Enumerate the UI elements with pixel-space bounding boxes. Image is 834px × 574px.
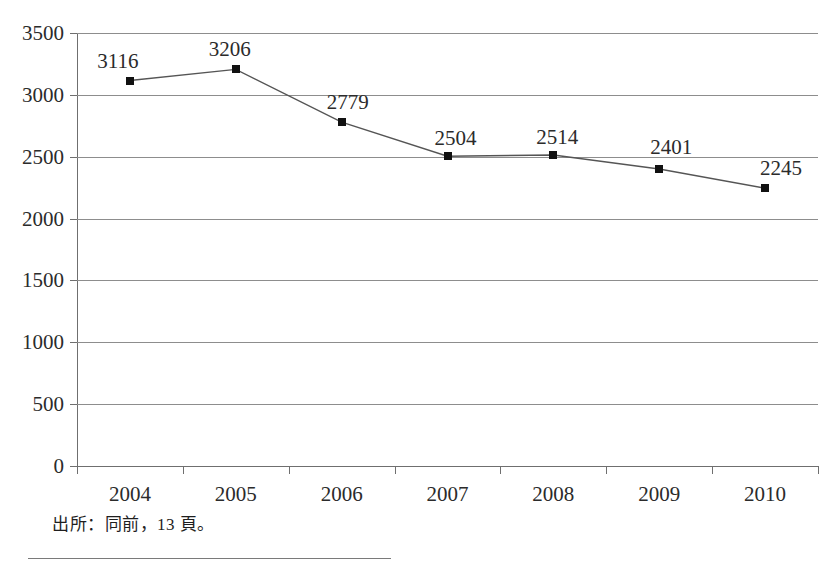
y-axis-label-2000: 2000 <box>0 209 64 230</box>
x-tick-2 <box>289 466 290 474</box>
x-tick-6 <box>712 466 713 474</box>
gridline-3500 <box>77 33 818 34</box>
data-label-2009: 2401 <box>626 137 716 158</box>
y-axis-label-1000: 1000 <box>0 332 64 353</box>
source-caption: 出所：同前，13 頁。 <box>52 515 215 535</box>
gridline-1000 <box>77 342 818 343</box>
gridline-0 <box>77 466 818 467</box>
data-label-2005: 3206 <box>185 39 275 60</box>
data-marker-2004 <box>126 77 134 85</box>
x-axis-label-2010: 2010 <box>710 483 820 505</box>
y-axis-label-3500: 3500 <box>0 23 64 44</box>
data-label-2007: 2504 <box>411 128 501 149</box>
x-tick-1 <box>183 466 184 474</box>
y-axis-label-2500: 2500 <box>0 147 64 168</box>
data-marker-2009 <box>655 165 663 173</box>
data-label-2008: 2514 <box>512 127 602 148</box>
y-axis-label-0: 0 <box>0 456 64 477</box>
data-label-2006: 2779 <box>303 92 393 113</box>
data-label-2004: 3116 <box>73 51 163 72</box>
data-label-2010: 2245 <box>736 158 826 179</box>
y-axis-label-1500: 1500 <box>0 270 64 291</box>
x-axis-label-2005: 2005 <box>181 483 291 505</box>
gridline-2000 <box>77 219 818 220</box>
x-tick-0 <box>77 466 78 474</box>
figure-container: 0500100015002000250030003500 20042005200… <box>0 0 834 574</box>
data-marker-2007 <box>444 152 452 160</box>
x-axis-label-2006: 2006 <box>287 483 397 505</box>
x-tick-3 <box>395 466 396 474</box>
x-axis-label-2007: 2007 <box>393 483 503 505</box>
clipped-chart-title <box>200 0 620 3</box>
data-marker-2008 <box>549 151 557 159</box>
plot-area <box>77 33 818 466</box>
gridline-500 <box>77 404 818 405</box>
gridline-1500 <box>77 280 818 281</box>
x-axis-label-2008: 2008 <box>498 483 608 505</box>
x-axis-label-2009: 2009 <box>604 483 714 505</box>
gridline-3000 <box>77 95 818 96</box>
x-axis-label-2004: 2004 <box>75 483 185 505</box>
footer-divider <box>28 558 391 559</box>
data-marker-2010 <box>761 184 769 192</box>
data-marker-2005 <box>232 65 240 73</box>
x-tick-4 <box>500 466 501 474</box>
x-tick-5 <box>606 466 607 474</box>
data-marker-2006 <box>338 118 346 126</box>
x-tick-7 <box>818 466 819 474</box>
y-axis-label-3000: 3000 <box>0 85 64 106</box>
y-axis-label-500: 500 <box>0 394 64 415</box>
